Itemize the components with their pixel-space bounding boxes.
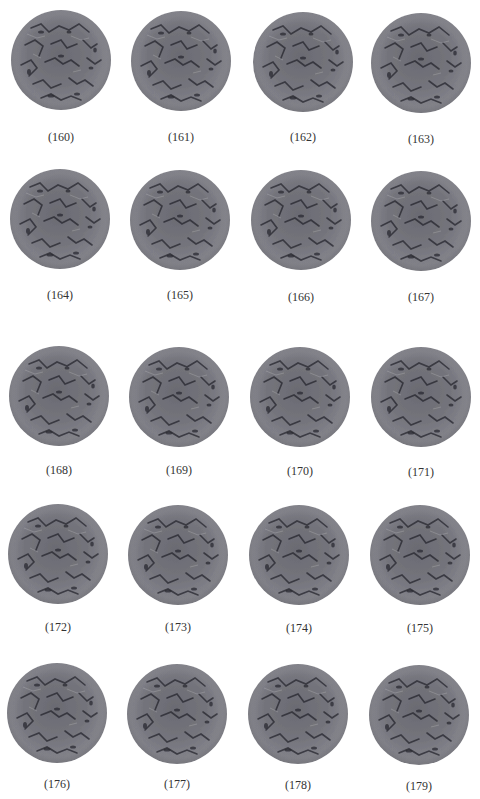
crack-texture: [253, 12, 353, 112]
panel-label: (177): [147, 777, 207, 792]
panel-label: (160): [31, 130, 91, 145]
panel-label: (171): [391, 465, 451, 480]
panel-label: (164): [30, 288, 90, 303]
sphere-image: [11, 10, 111, 110]
crack-texture: [11, 10, 111, 110]
crack-texture: [371, 347, 471, 447]
sphere-image: [10, 169, 110, 269]
crack-texture: [10, 169, 110, 269]
crack-texture: [8, 504, 108, 604]
sphere-image: [128, 505, 228, 605]
panel-label: (165): [150, 288, 210, 303]
sphere-image: [253, 12, 353, 112]
sphere-image: [129, 347, 229, 447]
panel-label: (172): [28, 620, 88, 635]
panel-label: (163): [391, 132, 451, 147]
sphere-image: [249, 505, 349, 605]
panel-label: (161): [151, 130, 211, 145]
crack-texture: [130, 170, 230, 270]
panel-label: (162): [273, 130, 333, 145]
panel-label: (168): [29, 463, 89, 478]
crack-texture: [370, 505, 470, 605]
sphere-image: [131, 11, 231, 111]
crack-texture: [131, 11, 231, 111]
sphere-image: [7, 663, 107, 763]
panel-label: (166): [271, 290, 331, 305]
panel-label: (175): [390, 621, 450, 636]
sphere-image: [127, 664, 227, 764]
panel-label: (178): [268, 778, 328, 793]
crack-texture: [369, 665, 469, 765]
sphere-image: [9, 346, 109, 446]
crack-texture: [127, 664, 227, 764]
panel-label: (179): [389, 779, 449, 794]
panel-label: (174): [269, 621, 329, 636]
sphere-image: [250, 347, 350, 447]
sphere-image: [251, 170, 351, 270]
panel-label: (173): [148, 620, 208, 635]
crack-texture: [251, 170, 351, 270]
crack-texture: [128, 505, 228, 605]
sphere-image: [130, 170, 230, 270]
crack-texture: [250, 347, 350, 447]
sphere-image: [371, 171, 471, 271]
crack-texture: [129, 347, 229, 447]
sphere-image: [370, 505, 470, 605]
panel-label: (169): [149, 463, 209, 478]
panel-label: (167): [391, 290, 451, 305]
crack-texture: [248, 664, 348, 764]
panel-label: (176): [27, 777, 87, 792]
sphere-image: [369, 665, 469, 765]
panel-label: (170): [270, 464, 330, 479]
crack-texture: [7, 663, 107, 763]
sphere-image: [8, 504, 108, 604]
sphere-image: [248, 664, 348, 764]
crack-texture: [249, 505, 349, 605]
crack-texture: [9, 346, 109, 446]
crack-texture: [371, 171, 471, 271]
sphere-image: [371, 347, 471, 447]
sphere-image: [371, 13, 471, 113]
crack-texture: [371, 13, 471, 113]
